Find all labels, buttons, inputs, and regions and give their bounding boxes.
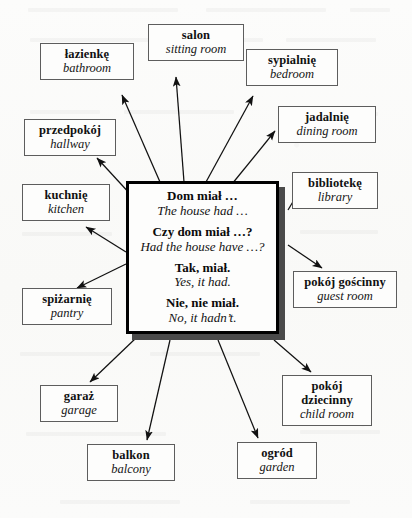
term-label-pl: łazienkę: [47, 47, 127, 61]
term-label-pl: kuchnię: [29, 188, 103, 202]
term-box-pokoj-goscinny[interactable]: pokój gościnny guest room: [293, 271, 397, 308]
term-box-pokoj-dziecinny[interactable]: pokójdziecinny child room: [282, 375, 372, 426]
term-label-pl: bibliotekę: [299, 176, 371, 190]
phrase-en: Yes, it had.: [174, 275, 231, 290]
term-label-en: balcony: [94, 462, 168, 476]
term-box-balkon[interactable]: balkon balcony: [87, 444, 175, 481]
term-box-garaz[interactable]: garaż garage: [40, 385, 118, 422]
term-label-en: garage: [47, 403, 111, 417]
term-label-pl: przedpokój: [31, 123, 109, 137]
phrase-en: Had the house have …?: [140, 240, 264, 255]
term-label-en: child room: [289, 407, 365, 421]
diagram-page: salon sitting room łazienkę bathroom syp…: [0, 0, 412, 518]
arrow-to-balkon: [147, 340, 170, 440]
arrow-to-garaz: [90, 338, 136, 382]
arrow-to-kuchnie: [86, 227, 126, 252]
term-label-en: bedroom: [253, 67, 331, 81]
term-box-salon[interactable]: salon sitting room: [148, 24, 244, 61]
phrase-pl: Tak, miał.: [174, 261, 231, 276]
phrase-pair-negative: Nie, nie miał. No, it hadn’t.: [166, 296, 239, 326]
term-box-lazienke[interactable]: łazienkę bathroom: [40, 43, 134, 80]
term-box-ogrod[interactable]: ogród garden: [237, 442, 317, 479]
phrase-pl: Czy dom miał …?: [140, 225, 264, 240]
term-label-pl: spiżarnię: [29, 292, 105, 306]
term-label-en: library: [299, 190, 371, 204]
arrow-to-salon: [176, 77, 184, 182]
term-label-pl: jadalnię: [285, 110, 369, 124]
phrase-pl: Nie, nie miał.: [166, 296, 239, 311]
phrase-pl: Dom miał …: [157, 189, 248, 204]
term-box-przedpokoj[interactable]: przedpokój hallway: [24, 119, 116, 156]
phrase-en: The house had …: [157, 204, 248, 219]
arrow-to-pokoj-goscinny: [288, 245, 322, 268]
term-label-en: bathroom: [47, 61, 127, 75]
arrow-to-jadalnie: [232, 131, 275, 184]
term-box-kuchnie[interactable]: kuchnię kitchen: [22, 184, 110, 221]
arrow-to-lazienke: [122, 95, 160, 182]
term-label-pl: ogród: [244, 446, 310, 460]
term-label-en: kitchen: [29, 202, 103, 216]
phrase-pair-statement: Dom miał … The house had …: [157, 189, 248, 219]
term-label-pl: salon: [155, 28, 237, 42]
term-label-pl: sypialnię: [253, 53, 331, 67]
term-label-en: sitting room: [155, 42, 237, 56]
term-box-sypialnie[interactable]: sypialnię bedroom: [246, 49, 338, 86]
term-label-pl: balkon: [94, 448, 168, 462]
term-label-pl-line1: pokójdziecinny: [289, 379, 365, 407]
arrow-to-spizarnie: [77, 264, 126, 288]
term-box-spizarnie[interactable]: spiżarnię pantry: [22, 288, 112, 325]
phrase-pair-question: Czy dom miał …? Had the house have …?: [140, 225, 264, 255]
phrase-en: No, it hadn’t.: [166, 311, 239, 326]
term-label-en: hallway: [31, 137, 109, 151]
term-label-en: guest room: [300, 289, 390, 303]
term-label-pl: pokój gościnny: [300, 275, 390, 289]
term-label-en: dining room: [285, 124, 369, 138]
center-phrase-box[interactable]: Dom miał … The house had … Czy dom miał …: [126, 181, 279, 334]
term-box-jadalnie[interactable]: jadalnię dining room: [278, 106, 376, 143]
term-box-biblioteke[interactable]: bibliotekę library: [292, 172, 378, 209]
term-label-pl: garaż: [47, 389, 111, 403]
phrase-pair-affirmative: Tak, miał. Yes, it had.: [174, 261, 231, 291]
arrow-to-pokoj-dziecinny: [274, 340, 311, 372]
term-label-en: garden: [244, 460, 310, 474]
term-label-en: pantry: [29, 306, 105, 320]
arrow-to-ogrod: [218, 340, 258, 438]
arrow-to-sypialnie: [206, 96, 253, 182]
